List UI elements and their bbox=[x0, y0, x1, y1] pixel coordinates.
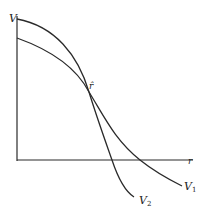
x-axis-label: r bbox=[188, 157, 192, 166]
diagram: V r r̂ V1 V2 bbox=[0, 0, 203, 211]
curve-v2-label: V2 bbox=[139, 195, 151, 208]
intersection-label: r̂ bbox=[89, 82, 93, 91]
y-axis-label: V bbox=[9, 13, 17, 24]
curve-v1-label: V1 bbox=[184, 181, 196, 194]
plot-lines bbox=[0, 0, 203, 211]
curve-v1 bbox=[17, 38, 182, 186]
